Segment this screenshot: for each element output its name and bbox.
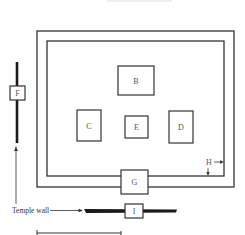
building-E: E xyxy=(125,116,148,138)
building-G: G xyxy=(121,170,148,194)
temple-wall-label: Temple wall xyxy=(12,206,49,215)
temple-plan-diagram: G B C E D F I H Temple wall xyxy=(0,0,245,235)
building-C: C xyxy=(77,110,101,141)
label-D: D xyxy=(178,123,184,132)
label-C: C xyxy=(86,122,91,131)
scale-bar xyxy=(37,230,121,235)
label-G: G xyxy=(132,178,138,187)
building-B: B xyxy=(118,66,154,95)
label-I: I xyxy=(133,207,136,216)
outer-enclosure-wall xyxy=(37,31,234,187)
inner-enclosure-wall xyxy=(47,41,224,176)
arrow-up-icon xyxy=(14,146,18,151)
label-F: F xyxy=(15,89,20,98)
annotation-H: H xyxy=(206,158,224,176)
temple-wall-west: F xyxy=(10,62,25,143)
label-E: E xyxy=(134,123,139,132)
label-B: B xyxy=(133,77,138,86)
building-D: D xyxy=(169,111,193,143)
arrow-right-icon xyxy=(79,209,84,213)
label-H: H xyxy=(206,158,212,167)
temple-wall-south: I xyxy=(84,204,177,218)
